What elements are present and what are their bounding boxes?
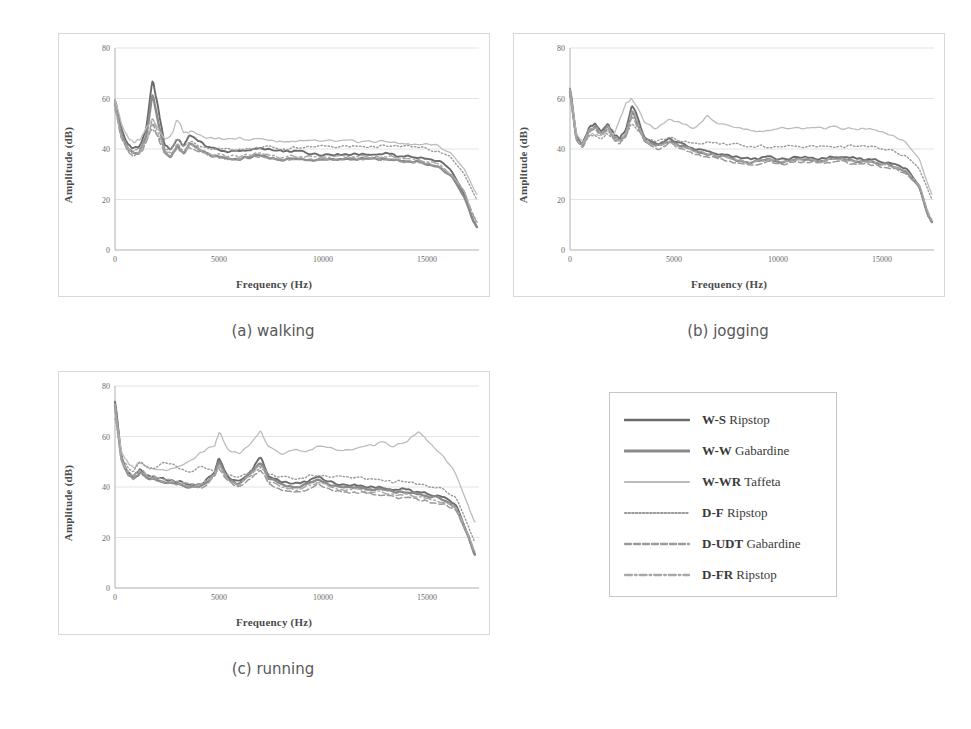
legend-line-swatch-icon xyxy=(624,507,690,519)
legend-item-fabric: Taffeta xyxy=(741,474,780,489)
x-axis-tick: 5000 xyxy=(666,255,682,264)
y-axis-tick: 60 xyxy=(102,94,110,103)
legend-item: D-FR Ripstop xyxy=(610,559,836,590)
y-axis-tick: 0 xyxy=(106,584,110,593)
y-axis-label-b: Amplitude (dB) xyxy=(512,34,534,296)
legend-line-swatch-icon xyxy=(624,414,690,426)
y-axis-tick: 80 xyxy=(102,382,110,391)
legend-item-label: W-W Gabardine xyxy=(702,443,789,459)
x-axis-tick: 10000 xyxy=(313,255,333,264)
legend-item-label: W-S Ripstop xyxy=(702,412,770,428)
y-axis-tick: 40 xyxy=(557,145,565,154)
x-axis-label-b: Frequency (Hz) xyxy=(514,278,944,290)
plot-area-running: 020406080050001000015000 xyxy=(115,386,479,588)
y-axis-tick: 80 xyxy=(102,44,110,53)
legend-item-fabric: Gabardine xyxy=(743,536,800,551)
chart-panel-jogging: Amplitude (dB) 020406080050001000015000 … xyxy=(513,33,945,297)
x-axis-tick: 15000 xyxy=(417,255,437,264)
y-axis-tick: 20 xyxy=(557,195,565,204)
x-axis-tick: 5000 xyxy=(211,593,227,602)
y-axis-tick: 60 xyxy=(557,94,565,103)
y-axis-tick: 20 xyxy=(102,195,110,204)
y-axis-tick: 80 xyxy=(557,44,565,53)
caption-walking: (a) walking xyxy=(58,322,488,340)
legend-line-swatch-icon xyxy=(624,538,690,550)
legend-item-label: D-FR Ripstop xyxy=(702,567,777,583)
y-axis-tick: 0 xyxy=(561,246,565,255)
legend-item-fabric: Ripstop xyxy=(724,505,768,520)
legend-line-swatch-icon xyxy=(624,445,690,457)
legend-item-code: W-W xyxy=(702,443,732,458)
legend-item-fabric: Ripstop xyxy=(726,412,770,427)
x-axis-tick: 10000 xyxy=(768,255,788,264)
y-axis-tick: 40 xyxy=(102,483,110,492)
legend-item-fabric: Ripstop xyxy=(733,567,777,582)
chart-panel-running: Amplitude (dB) 020406080050001000015000 … xyxy=(58,371,490,635)
y-axis-label-c: Amplitude (dB) xyxy=(57,372,79,634)
legend-item: D-UDT Gabardine xyxy=(610,528,836,559)
legend-item: W-W Gabardine xyxy=(610,435,836,466)
legend-item-label: D-UDT Gabardine xyxy=(702,536,801,552)
x-axis-tick: 15000 xyxy=(417,593,437,602)
y-axis-tick: 20 xyxy=(102,533,110,542)
legend-item-fabric: Gabardine xyxy=(732,443,789,458)
x-axis-tick: 0 xyxy=(113,593,117,602)
legend-line-swatch-icon xyxy=(624,476,690,488)
x-axis-tick: 0 xyxy=(568,255,572,264)
x-axis-tick: 15000 xyxy=(872,255,892,264)
legend-item: D-F Ripstop xyxy=(610,497,836,528)
caption-jogging: (b) jogging xyxy=(513,322,943,340)
x-axis-label-a: Frequency (Hz) xyxy=(59,278,489,290)
legend-item-label: W-WR Taffeta xyxy=(702,474,781,490)
x-axis-tick: 0 xyxy=(113,255,117,264)
y-axis-tick: 60 xyxy=(102,432,110,441)
legend: W-S RipstopW-W GabardineW-WR TaffetaD-F … xyxy=(609,392,837,597)
legend-item-code: W-S xyxy=(702,412,726,427)
legend-item-code: D-FR xyxy=(702,567,733,582)
legend-item-code: D-F xyxy=(702,505,724,520)
plot-area-jogging: 020406080050001000015000 xyxy=(570,48,934,250)
figure-spectra: Amplitude (dB) 020406080050001000015000 … xyxy=(0,0,971,729)
x-axis-tick: 10000 xyxy=(313,593,333,602)
plot-area-walking: 020406080050001000015000 xyxy=(115,48,479,250)
x-axis-label-c: Frequency (Hz) xyxy=(59,616,489,628)
x-axis-tick: 5000 xyxy=(211,255,227,264)
chart-panel-walking: Amplitude (dB) 020406080050001000015000 … xyxy=(58,33,490,297)
legend-item: W-S Ripstop xyxy=(610,404,836,435)
legend-item: W-WR Taffeta xyxy=(610,466,836,497)
y-axis-tick: 40 xyxy=(102,145,110,154)
legend-item-code: D-UDT xyxy=(702,536,743,551)
legend-item-label: D-F Ripstop xyxy=(702,505,767,521)
y-axis-tick: 0 xyxy=(106,246,110,255)
y-axis-label-a: Amplitude (dB) xyxy=(57,34,79,296)
legend-line-swatch-icon xyxy=(624,569,690,581)
caption-running: (c) running xyxy=(58,660,488,678)
legend-item-code: W-WR xyxy=(702,474,741,489)
